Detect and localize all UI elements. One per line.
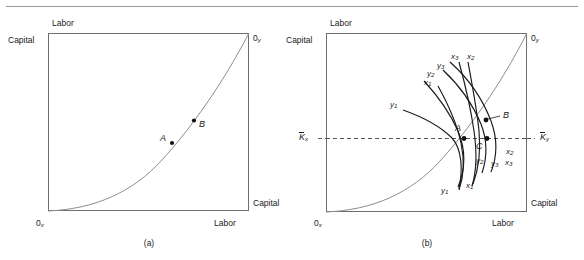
panel-b-isoquant-label-y3-bottom: y3 [491,160,498,169]
panel-b-isoquant-label-x1-bottom: x1 [466,182,473,191]
panel-b-isoquant-label-x2-top: x2 [467,53,474,62]
lbl-y3-bot-sub: 3 [495,161,498,168]
panel-b-isoquant-y3 [450,62,496,172]
panel-b-origin-x-sub: x [319,221,322,228]
panel-b-isoquant-label-x2-right: x2 [506,148,513,157]
lbl-y1-top-sub: 1 [394,102,397,109]
panel-b-origin-y: 0y [531,34,539,44]
panel-b-point-B-label: B [503,111,509,120]
panel-b-isoquant-label-x3-top: x3 [451,53,458,62]
figure-canvas: Capital Labor Capital Labor 0y 0x A B (a… [0,0,584,260]
panel-b-point-C-dot [485,136,490,141]
panel-b-capital-endowment-y-label: Ky [540,133,549,143]
lbl-x1-top-sub: 1 [428,80,431,87]
panel-b-isoquant-label-x3-right: x3 [505,159,512,168]
panel-b-contract-curve [326,33,527,212]
lbl-x2-right-sub: 2 [510,149,513,156]
panel-b-isoquant-x2 [468,62,480,184]
kbar-x-symbol: K [299,132,305,142]
lbl-y3-top-sub: 3 [441,63,444,70]
lbl-y1-bot-sub: 1 [445,188,448,195]
panel-b-isoquant-label-y1-top: y1 [390,101,397,110]
panel-b-label-capital-bottom: Capital [531,199,557,208]
panel-b-isoquant-label-y1-bottom: y1 [441,187,448,196]
panel-b-isoquant-label-y3-top: y3 [437,62,444,71]
panel-b-isoquant-label-y2-top: y2 [427,70,434,79]
lbl-x3-right-sub: 3 [509,160,512,167]
panel-b-point-A-dot [462,136,467,141]
panel-b-capital-endowment-x-label: Kx [299,133,308,143]
kbar-x-sub: x [305,135,308,142]
panel-b-point-B-dot [484,118,489,123]
panel-b-point-C-label: C [476,142,483,151]
panel-b-origin-y-sub: y [536,36,539,43]
lbl-y2-bot-sub: 2 [480,158,483,165]
kbar-y-symbol: K [540,132,546,142]
panel-b-origin-x: 0x [314,219,322,229]
panel-b-label-labor-bottom: Labor [492,219,514,228]
kbar-y-sub: y [546,135,549,142]
panel-b-isoquant-y1-lower [403,110,461,189]
panel-b-label-labor-top: Labor [330,19,352,28]
lbl-y2-top-sub: 2 [431,71,434,78]
panel-b-label-capital-top: Capital [286,36,312,45]
lbl-x3-top-sub: 3 [455,54,458,61]
panel-b-caption: (b) [397,238,457,248]
lbl-x1-bot-sub: 1 [470,183,473,190]
panel-b-isoquant-label-y2-bottom: y2 [476,157,483,166]
panel-b-point-A-label: A [455,124,461,133]
panel-b-isoquant-label-x1-top: x1 [424,79,431,88]
lbl-x2-top-sub: 2 [471,54,474,61]
